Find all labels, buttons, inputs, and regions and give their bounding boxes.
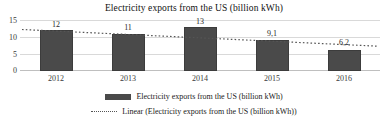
- bar-2012[interactable]: [40, 30, 73, 71]
- legend-item-trendline-series[interactable]: Linear (Electricity exports from the US …: [0, 104, 388, 119]
- data-label-2016: 6,2: [308, 38, 380, 47]
- x-axis: 2012 2013 2014 2015 2016: [20, 74, 380, 86]
- legend-dotted-line-icon: [91, 109, 117, 114]
- x-tick-label-2013: 2013: [92, 74, 164, 84]
- data-label-2012: 12: [20, 20, 92, 29]
- y-tick-label: 10: [0, 34, 17, 42]
- bar-2013[interactable]: [112, 34, 145, 71]
- y-tick-label: 5: [0, 51, 17, 59]
- bar-slot: [236, 20, 308, 71]
- y-tick-label: 0: [0, 67, 17, 75]
- bar-slot: [164, 20, 236, 71]
- chart-title: Electricity exports from the US (billion…: [0, 2, 388, 14]
- x-tick-label-2014: 2014: [164, 74, 236, 84]
- bar-2015[interactable]: [256, 40, 289, 71]
- x-tick-label-2016: 2016: [308, 74, 380, 84]
- legend-label: Electricity exports from the US (billion…: [136, 92, 282, 102]
- bar-2014[interactable]: [184, 27, 217, 71]
- bar-2016[interactable]: [328, 50, 361, 71]
- data-label-2015: 9,1: [236, 29, 308, 38]
- x-tick-label-2015: 2015: [236, 74, 308, 84]
- data-label-2013: 11: [92, 23, 164, 32]
- y-tick-label: 15: [0, 17, 17, 25]
- chart-container: Electricity exports from the US (billion…: [0, 0, 388, 125]
- data-label-2014: 13: [164, 17, 236, 26]
- legend-item-bar-series[interactable]: Electricity exports from the US (billion…: [0, 89, 388, 104]
- legend-label: Linear (Electricity exports from the US …: [122, 107, 296, 117]
- x-tick-label-2012: 2012: [20, 74, 92, 84]
- legend-bar-swatch-icon: [105, 94, 131, 100]
- chart-legend: Electricity exports from the US (billion…: [0, 89, 388, 119]
